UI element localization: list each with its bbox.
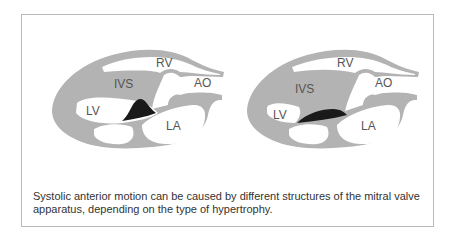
label-lv: LV bbox=[86, 104, 100, 118]
label-ao: AO bbox=[194, 76, 211, 90]
label-rv: RV bbox=[156, 56, 172, 70]
label-la: LA bbox=[361, 119, 376, 133]
label-ivs: IVS bbox=[114, 77, 133, 91]
label-rv: RV bbox=[337, 56, 353, 70]
heart-diagram-left: RV IVS AO LV LA bbox=[42, 15, 232, 165]
label-ivs: IVS bbox=[295, 82, 314, 96]
label-la: LA bbox=[166, 119, 181, 133]
label-lv: LV bbox=[273, 108, 287, 122]
figure-frame: RV IVS AO LV LA RV IVS AO LV LA Systolic… bbox=[21, 14, 434, 227]
figure-caption: Systolic anterior motion can be caused b… bbox=[33, 190, 428, 215]
label-ao: AO bbox=[375, 76, 392, 90]
heart-diagram-right: RV IVS AO LV LA bbox=[237, 15, 427, 165]
